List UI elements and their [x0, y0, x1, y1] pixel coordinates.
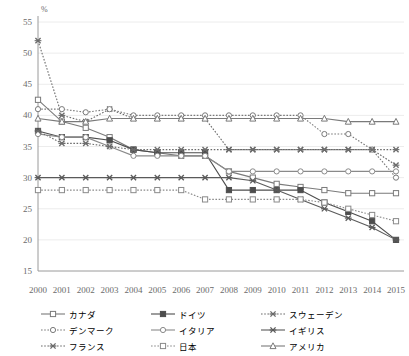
data-point-marker — [298, 187, 303, 192]
legend-item-5[interactable]: イギリス — [260, 324, 370, 336]
legend-item-label: フランス — [69, 340, 105, 352]
x-tick-label: 2010 — [268, 285, 287, 295]
legend-item-1[interactable]: ドイツ — [150, 308, 260, 320]
legend-item-label: 日本 — [179, 340, 197, 352]
series-6 — [35, 128, 400, 152]
data-point-marker — [321, 206, 328, 211]
data-point-marker — [83, 110, 88, 115]
data-point-marker — [83, 135, 88, 140]
data-point-marker — [58, 141, 65, 146]
data-point-marker — [82, 141, 89, 146]
data-point-marker — [106, 175, 113, 180]
series-line — [38, 134, 396, 171]
legend-item-4[interactable]: イタリア — [150, 324, 260, 336]
data-point-marker — [35, 97, 40, 102]
legend-symbol — [150, 340, 176, 352]
data-point-marker — [274, 169, 279, 174]
data-point-marker — [273, 147, 280, 152]
data-point-marker — [369, 225, 376, 230]
legend-item-2[interactable]: スウェーデン — [260, 308, 370, 320]
series-line — [38, 131, 396, 240]
data-point-marker — [345, 215, 352, 220]
legend-item-label: デンマーク — [69, 324, 114, 336]
legend-item-label: イタリア — [179, 324, 215, 336]
x-tick-label: 2009 — [244, 285, 263, 295]
data-point-marker — [35, 187, 40, 192]
legend-row: デンマークイタリアイギリス — [0, 322, 409, 338]
y-tick-label: 25 — [23, 204, 33, 214]
data-point-marker — [226, 175, 233, 180]
y-tick-label: 20 — [23, 235, 33, 245]
data-point-marker — [250, 187, 255, 192]
data-point-marker — [269, 311, 276, 316]
data-point-marker — [322, 131, 327, 136]
data-point-marker — [322, 200, 327, 205]
data-point-marker — [393, 147, 400, 152]
data-point-marker — [107, 187, 112, 192]
legend-symbol — [260, 308, 286, 320]
data-point-marker — [346, 131, 351, 136]
legend-row: フランス日本アメリカ — [0, 338, 409, 354]
series-8 — [35, 115, 399, 124]
legend-item-3[interactable]: デンマーク — [40, 324, 150, 336]
data-point-marker — [160, 327, 165, 332]
y-axis-unit-label: % — [41, 5, 48, 14]
data-point-marker — [322, 169, 327, 174]
chart-legend: カナダドイツスウェーデンデンマークイタリアイギリスフランス日本アメリカ — [0, 306, 409, 356]
data-point-marker — [322, 187, 327, 192]
y-tick-label: 15 — [23, 266, 33, 276]
data-point-marker — [250, 169, 255, 174]
y-tick-label: 30 — [23, 173, 33, 183]
data-point-marker — [370, 169, 375, 174]
data-point-marker — [249, 147, 256, 152]
data-point-marker — [250, 197, 255, 202]
legend-symbol — [40, 324, 66, 336]
data-point-marker — [35, 107, 40, 112]
legend-symbol — [150, 308, 176, 320]
legend-item-label: イギリス — [289, 324, 325, 336]
x-tick-label: 2014 — [363, 285, 382, 295]
x-tick-label: 2002 — [77, 285, 95, 295]
x-tick-label: 2015 — [387, 285, 406, 295]
data-point-marker — [130, 175, 137, 180]
legend-item-7[interactable]: 日本 — [150, 340, 260, 352]
x-tick-label: 2003 — [101, 285, 120, 295]
data-point-marker — [297, 147, 304, 152]
data-point-marker — [178, 175, 185, 180]
data-point-marker — [59, 135, 64, 140]
data-point-marker — [160, 343, 165, 348]
line-chart: 152025303540455055%200020012002200320042… — [0, 0, 409, 356]
data-point-marker — [298, 197, 303, 202]
x-tick-label: 2004 — [124, 285, 143, 295]
data-point-marker — [59, 187, 64, 192]
data-point-marker — [370, 212, 375, 217]
data-point-marker — [107, 107, 112, 112]
data-point-marker — [393, 169, 398, 174]
data-point-marker — [202, 197, 207, 202]
legend-symbol — [150, 324, 176, 336]
data-point-marker — [83, 187, 88, 192]
x-tick-label: 2000 — [29, 285, 48, 295]
data-point-marker — [160, 311, 165, 316]
data-point-marker — [370, 191, 375, 196]
y-tick-label: 50 — [23, 48, 33, 58]
legend-item-0[interactable]: カナダ — [40, 308, 150, 320]
legend-item-6[interactable]: フランス — [40, 340, 150, 352]
y-tick-label: 40 — [23, 110, 33, 120]
data-point-marker — [202, 175, 209, 180]
legend-item-label: カナダ — [69, 308, 96, 320]
data-point-marker — [179, 153, 184, 158]
data-point-marker — [154, 175, 161, 180]
series-line — [38, 190, 396, 221]
legend-symbol — [260, 324, 286, 336]
data-point-marker — [226, 169, 231, 174]
legend-item-8[interactable]: アメリカ — [260, 340, 370, 352]
data-point-marker — [370, 219, 375, 224]
series-2 — [35, 38, 400, 168]
legend-symbol — [40, 340, 66, 352]
data-point-marker — [274, 197, 279, 202]
data-point-marker — [321, 147, 328, 152]
data-point-marker — [58, 113, 65, 118]
data-point-marker — [346, 191, 351, 196]
y-tick-label: 45 — [23, 79, 33, 89]
